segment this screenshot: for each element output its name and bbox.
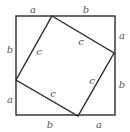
label-right-b: b [119, 79, 125, 90]
pythagorean-diagram: a b a b a b b a c c c c [0, 0, 130, 132]
label-right-a: a [119, 30, 125, 41]
label-hypotenuse-bottom: c [50, 88, 56, 99]
label-left-a: a [7, 94, 13, 105]
inner-square [16, 16, 114, 116]
label-top-a: a [30, 4, 36, 15]
label-hypotenuse-right: c [89, 75, 95, 86]
label-bottom-a: a [96, 119, 102, 130]
label-left-b: b [7, 44, 13, 55]
label-hypotenuse-top: c [78, 36, 84, 47]
outer-square [16, 16, 115, 115]
label-bottom-b: b [47, 119, 53, 130]
label-top-b: b [83, 4, 89, 15]
label-hypotenuse-left: c [36, 46, 42, 57]
